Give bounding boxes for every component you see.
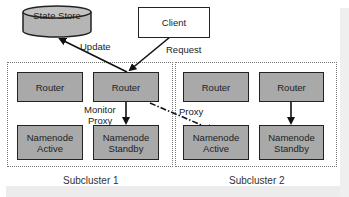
namenode-label: Namenode: [268, 132, 314, 143]
subcluster-1-label: Subcluster 1: [63, 175, 119, 186]
subcluster-2-router-2: Router: [259, 72, 324, 102]
request-arrow: [130, 37, 170, 70]
client-label: Client: [162, 17, 186, 28]
subcluster-2-label: Subcluster 2: [229, 175, 285, 186]
namenode-state: Active: [27, 143, 73, 154]
subcluster-2-router-1: Router: [183, 72, 249, 102]
router-label: Router: [112, 82, 141, 93]
subcluster-1-router-2: Router: [93, 72, 159, 102]
state-store-label: State Store: [23, 10, 91, 21]
subcluster-2-namenode-active: Namenode Active: [183, 125, 249, 160]
proxy-label: Proxy: [179, 106, 203, 117]
router-label: Router: [36, 82, 65, 93]
request-label: Request: [166, 44, 201, 55]
namenode-label: Namenode: [27, 132, 73, 143]
router-label: Router: [277, 82, 306, 93]
update-label: Update: [80, 41, 111, 52]
monitor-label: Monitor: [84, 104, 116, 115]
client-node: Client: [138, 7, 210, 38]
namenode-state: Standby: [103, 143, 149, 154]
subcluster-2-namenode-standby: Namenode Standby: [259, 125, 324, 160]
subcluster-1-namenode-active: Namenode Active: [17, 125, 83, 160]
subcluster-1-router-1: Router: [17, 72, 83, 102]
namenode-label: Namenode: [193, 132, 239, 143]
subcluster-1-namenode-standby: Namenode Standby: [93, 125, 159, 160]
namenode-state: Active: [193, 143, 239, 154]
router-label: Router: [202, 82, 231, 93]
namenode-label: Namenode: [103, 132, 149, 143]
namenode-state: Standby: [268, 143, 314, 154]
